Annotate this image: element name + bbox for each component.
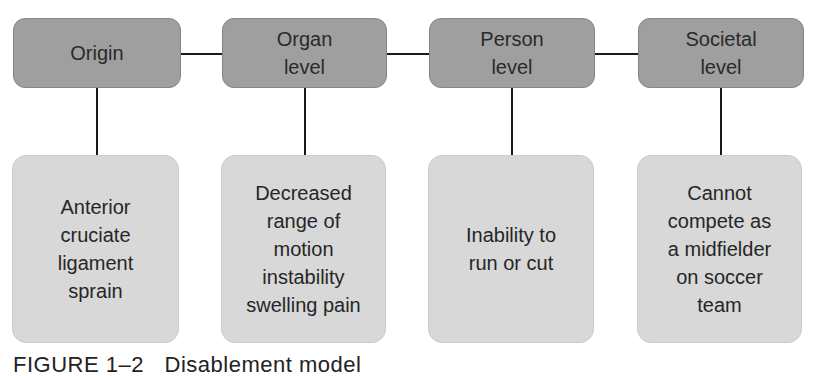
detail-text: Decreased range of motion instability sw… (246, 179, 361, 319)
level-box-origin: Origin (13, 18, 181, 88)
detail-box-societal: Cannot compete as a midfielder on soccer… (637, 155, 802, 343)
figure-caption-text: Disablement model (165, 352, 362, 376)
figure-caption: FIGURE 1–2 Disablement model (13, 352, 361, 376)
connector-person-societal (595, 53, 638, 55)
detail-box-person: Inability to run or cut (428, 155, 594, 343)
connector-societal-down (720, 88, 722, 155)
level-box-person: Person level (429, 18, 595, 88)
detail-text: Cannot compete as a midfielder on soccer… (668, 179, 771, 319)
connector-origin-down (96, 88, 98, 155)
connector-person-down (511, 88, 513, 155)
figure-label: FIGURE 1–2 (13, 352, 144, 376)
level-box-societal: Societal level (638, 18, 804, 88)
detail-box-origin: Anterior cruciate ligament sprain (12, 155, 179, 343)
level-title: Organ level (277, 25, 333, 81)
detail-box-organ: Decreased range of motion instability sw… (221, 155, 386, 343)
level-title: Societal level (685, 25, 756, 81)
level-title: Person level (480, 25, 543, 81)
connector-organ-down (304, 88, 306, 155)
level-title: Origin (70, 39, 123, 67)
level-box-organ: Organ level (222, 18, 387, 88)
connector-organ-person (387, 53, 429, 55)
detail-text: Anterior cruciate ligament sprain (58, 193, 134, 305)
connector-origin-organ (181, 53, 222, 55)
detail-text: Inability to run or cut (466, 221, 556, 277)
